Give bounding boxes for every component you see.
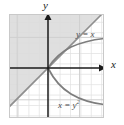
parabola-equation-exponent: 2 bbox=[77, 99, 80, 105]
parabola-equation-base: x = y bbox=[58, 100, 77, 110]
parabola-equation-label: x = y2 bbox=[58, 99, 80, 110]
graph-figure: y x y = x x = y2 bbox=[0, 0, 124, 125]
line-equation-label: y = x bbox=[76, 30, 95, 39]
x-axis-label: x bbox=[111, 59, 116, 70]
y-axis-label: y bbox=[43, 0, 48, 11]
